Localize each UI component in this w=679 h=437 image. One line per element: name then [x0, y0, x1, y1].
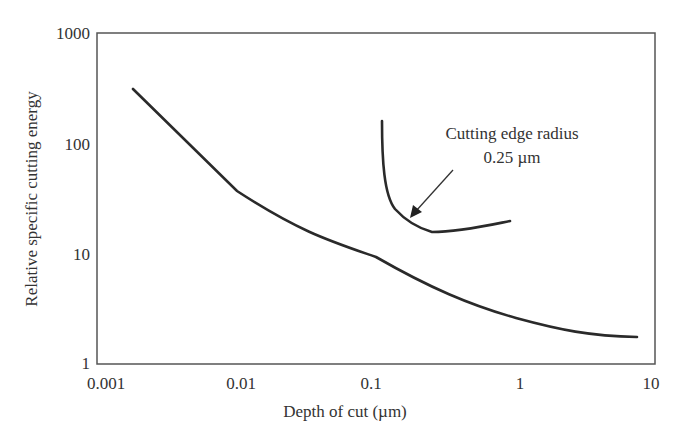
- x-tick-1: 1: [516, 374, 525, 393]
- annotation-line1: Cutting edge radius: [445, 124, 578, 143]
- plot-frame: [97, 33, 655, 364]
- y-tick-1: 1: [82, 354, 91, 373]
- x-axis-label: Depth of cut (µm): [283, 402, 407, 421]
- x-tick-0.1: 0.1: [360, 374, 381, 393]
- annotation-arrow-line: [416, 170, 453, 211]
- annotation-line2: 0.25 µm: [483, 148, 540, 167]
- y-tick-100: 100: [65, 135, 91, 154]
- y-tick-10: 10: [73, 245, 90, 264]
- x-tick-0.01: 0.01: [226, 374, 256, 393]
- x-tick-10: 10: [643, 374, 660, 393]
- chart: 1000 100 10 1 0.001 0.01 0.1 1 10 Depth …: [0, 0, 679, 437]
- y-axis-label: Relative specific cutting energy: [22, 91, 41, 307]
- x-tick-0.001: 0.001: [87, 374, 125, 393]
- y-tick-1000: 1000: [56, 24, 90, 43]
